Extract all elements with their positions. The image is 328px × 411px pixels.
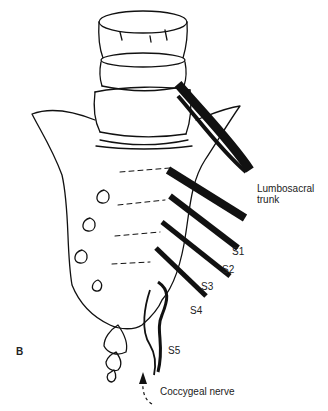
s1-root xyxy=(168,170,245,218)
label-lumbosacral-trunk: Lumbosacral trunk xyxy=(257,183,314,205)
s3-root xyxy=(162,222,230,276)
sacral-plexus-drawing xyxy=(0,0,328,411)
sacrum-outline xyxy=(32,106,240,329)
label-s2: S2 xyxy=(222,264,234,275)
label-s1: S1 xyxy=(232,246,244,257)
lumbosacral-label-line2: trunk xyxy=(257,194,314,205)
label-s4: S4 xyxy=(190,305,202,316)
label-coccygeal-nerve: Coccygeal nerve xyxy=(160,386,234,397)
label-s3: S3 xyxy=(201,281,213,292)
lumbar-vertebra xyxy=(94,11,192,149)
panel-label: B xyxy=(16,346,23,357)
label-s5: S5 xyxy=(168,345,180,356)
s5-root xyxy=(158,282,167,372)
lumbosacral-label-line1: Lumbosacral xyxy=(257,183,314,194)
coccyx xyxy=(104,325,127,382)
